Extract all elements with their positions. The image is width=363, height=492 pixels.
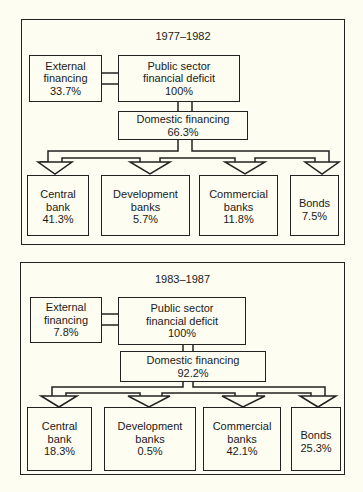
development-banks-label-2: banks — [135, 433, 164, 446]
external-financing-label: External — [46, 301, 86, 314]
development-banks-label: Development — [118, 420, 183, 433]
commercial-banks-label-2: banks — [227, 433, 256, 446]
domestic-financing-label: Domestic financing — [147, 354, 240, 367]
bonds-box: Bonds 25.3% — [291, 407, 341, 471]
external-financing-value: 7.8% — [53, 326, 78, 339]
central-bank-value: 18.3% — [44, 445, 75, 458]
commercial-banks-box: Commercial banks 42.1% — [203, 407, 281, 471]
public-sector-deficit-box: Public sector financial deficit 100% — [118, 297, 246, 345]
external-financing-label-2: financing — [44, 314, 88, 327]
bonds-value: 25.3% — [300, 442, 331, 455]
public-sector-label: Public sector — [151, 302, 214, 315]
central-bank-label: Central — [42, 420, 77, 433]
domestic-financing-box: Domestic financing 92.2% — [120, 351, 266, 382]
development-banks-value: 0.5% — [137, 445, 162, 458]
bonds-label: Bonds — [300, 429, 331, 442]
central-bank-box: Central bank 18.3% — [27, 407, 92, 471]
public-sector-label-2: financial deficit — [146, 315, 218, 328]
commercial-banks-label: Commercial — [213, 420, 272, 433]
commercial-banks-value: 42.1% — [226, 445, 257, 458]
public-sector-value: 100% — [168, 327, 196, 340]
development-banks-box: Development banks 0.5% — [104, 407, 196, 471]
external-financing-box: External financing 7.8% — [30, 297, 102, 343]
domestic-financing-value: 92.2% — [177, 367, 208, 380]
central-bank-label-2: bank — [48, 433, 72, 446]
